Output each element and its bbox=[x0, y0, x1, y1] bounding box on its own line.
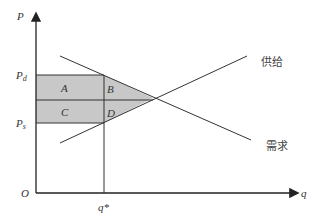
x-axis-label: q bbox=[301, 187, 307, 199]
origin-label: O bbox=[21, 187, 29, 199]
demand-label: 需求 bbox=[266, 140, 288, 153]
region-c-label: C bbox=[61, 106, 69, 118]
region-d-label: D bbox=[106, 107, 115, 119]
y-axis-label: P bbox=[16, 10, 24, 22]
ps-label: Ps bbox=[15, 117, 26, 131]
region-a-rect bbox=[36, 75, 104, 100]
supply-label: 供给 bbox=[261, 55, 283, 69]
diagram-svg: P q O Pd Ps q* A B C D 供给 需求 bbox=[0, 0, 312, 223]
region-b-label: B bbox=[107, 83, 114, 95]
q-star-label: q* bbox=[98, 201, 110, 213]
region-a-label: A bbox=[60, 82, 68, 94]
pd-label: Pd bbox=[15, 69, 28, 83]
supply-demand-diagram: P q O Pd Ps q* A B C D 供给 需求 bbox=[0, 0, 312, 223]
region-c-rect bbox=[36, 100, 104, 123]
